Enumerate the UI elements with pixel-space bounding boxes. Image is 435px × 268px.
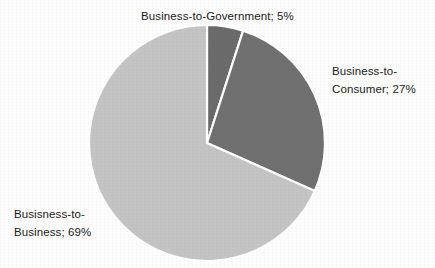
slice-label-line: Business-to-: [332, 62, 416, 80]
pie-svg: [87, 23, 327, 263]
pie-chart-figure: Business-to-Government; 5% Business-to- …: [0, 0, 435, 268]
slice-label-line: Business-to-Government; 5%: [0, 7, 435, 25]
pie-slice-group: [89, 25, 325, 261]
slice-label-business-to-business: Busisness-to- Business; 69%: [14, 205, 91, 241]
slice-label-business-to-government: Business-to-Government; 5%: [0, 7, 435, 25]
pie-chart-graphic: [87, 23, 327, 263]
slice-label-line: Busisness-to-: [14, 205, 91, 223]
slice-label-line: Consumer; 27%: [332, 80, 416, 98]
slice-label-business-to-consumer: Business-to- Consumer; 27%: [332, 62, 416, 98]
slice-label-line: Business; 69%: [14, 223, 91, 241]
